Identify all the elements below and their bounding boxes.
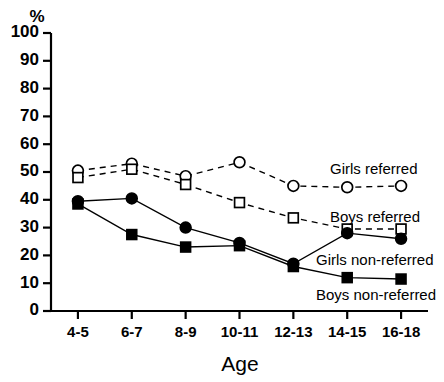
- y-tick-label: 60: [20, 134, 39, 153]
- y-tick-label: 20: [20, 245, 39, 264]
- x-tick-label: 6-7: [121, 323, 143, 340]
- data-point-filled-square: [342, 273, 352, 283]
- x-axis-title: Age: [221, 352, 258, 375]
- line-chart-svg: 0102030405060708090100 % 4-56-78-910-111…: [0, 0, 444, 382]
- y-tick-label: 30: [20, 217, 39, 236]
- x-tick-marks: [78, 311, 401, 319]
- chart-container: 0102030405060708090100 % 4-56-78-910-111…: [0, 0, 444, 382]
- data-point-filled-circle: [126, 193, 137, 204]
- x-tick-label: 10-11: [221, 323, 259, 340]
- data-point-filled-square: [396, 274, 406, 284]
- series-labels-group: Girls referredBoys referredGirls non-ref…: [316, 160, 436, 303]
- data-point-filled-square: [235, 241, 245, 251]
- data-point-open-square: [235, 198, 245, 208]
- data-point-filled-square: [127, 230, 137, 240]
- y-tick-label: 50: [20, 161, 39, 180]
- data-point-filled-square: [288, 262, 298, 272]
- x-tick-label: 4-5: [67, 323, 89, 340]
- data-point-filled-square: [181, 242, 191, 252]
- series-label-boys-referred: Boys referred: [330, 208, 420, 225]
- y-tick-marks: [43, 33, 51, 311]
- data-point-open-square: [127, 164, 137, 174]
- x-axis-group: 4-56-78-910-1112-1314-1516-18 Age: [51, 311, 428, 375]
- series-label-girls-referred: Girls referred: [330, 160, 418, 177]
- x-tick-label: 16-18: [382, 323, 420, 340]
- y-tick-label: 80: [20, 78, 39, 97]
- y-tick-label: 10: [20, 273, 39, 292]
- data-point-open-circle: [288, 181, 299, 192]
- data-point-filled-circle: [180, 222, 191, 233]
- x-tick-label: 14-15: [328, 323, 366, 340]
- data-point-open-square: [73, 173, 83, 183]
- data-point-open-circle: [342, 182, 353, 193]
- data-point-open-square: [396, 224, 406, 234]
- data-point-filled-circle: [342, 228, 353, 239]
- y-axis-group: 0102030405060708090100 %: [11, 7, 51, 319]
- data-point-filled-square: [73, 199, 83, 209]
- y-tick-label: 0: [30, 300, 39, 319]
- data-point-open-circle: [396, 181, 407, 192]
- series-label-girls-non-referred: Girls non-referred: [316, 251, 434, 268]
- y-tick-label: 70: [20, 106, 39, 125]
- data-point-open-circle: [234, 157, 245, 168]
- x-tick-label: 12-13: [274, 323, 312, 340]
- x-tick-labels: 4-56-78-910-1112-1314-1516-18: [67, 323, 420, 340]
- data-point-open-square: [288, 213, 298, 223]
- y-tick-labels: 0102030405060708090100: [11, 22, 39, 319]
- data-point-filled-circle: [396, 233, 407, 244]
- x-tick-label: 8-9: [175, 323, 197, 340]
- y-tick-label: 90: [20, 50, 39, 69]
- y-tick-label: 40: [20, 189, 39, 208]
- data-point-open-square: [181, 180, 191, 190]
- series-label-boys-non-referred: Boys non-referred: [316, 286, 436, 303]
- y-axis-unit-label: %: [29, 7, 44, 26]
